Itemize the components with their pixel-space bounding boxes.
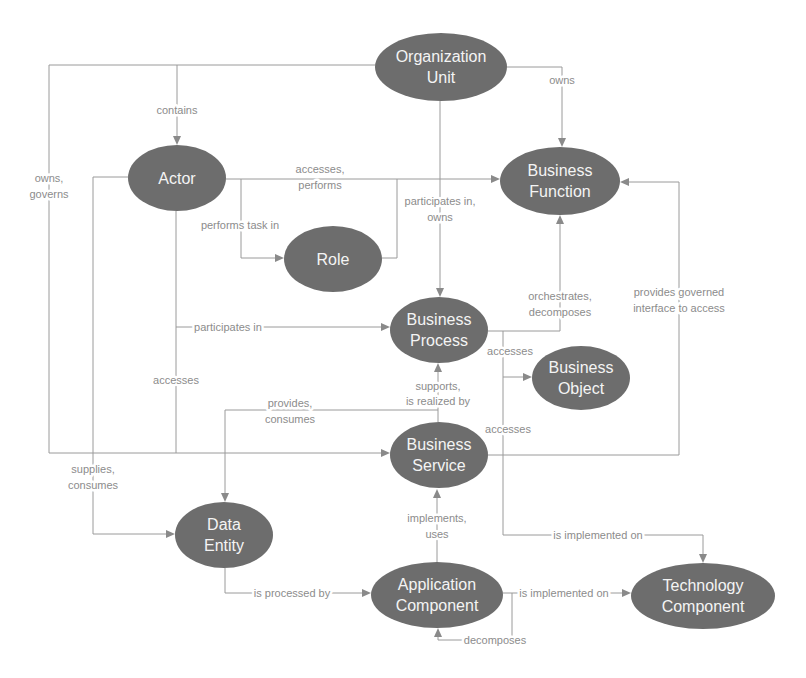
node-data-entity: Data Entity — [175, 502, 273, 568]
edge-label-orchestrates-decomposes: orchestrates, — [528, 290, 592, 302]
edge-label-provides-consumes: provides, — [268, 397, 313, 409]
edge-label-supplies-consumes: consumes — [68, 479, 119, 491]
edge-label-performs-task-in: performs task in — [201, 219, 279, 231]
node-business-function: Business Function — [500, 147, 620, 215]
arrow-head-icon — [620, 178, 629, 186]
edge-label-participates-in-owns: owns — [427, 211, 453, 223]
arrow-head-icon — [491, 175, 500, 183]
node-label: Business — [407, 311, 472, 328]
edge-label-provides-governed-interface: provides governed — [634, 286, 725, 298]
arrow-head-icon — [434, 628, 442, 637]
node-label: Data — [207, 516, 241, 533]
arrow-head-icon — [362, 589, 371, 597]
node-role: Role — [284, 226, 382, 292]
node-label: Service — [412, 457, 465, 474]
node-label: Application — [398, 576, 476, 593]
node-label: Process — [410, 332, 468, 349]
node-organization-unit: Organization Unit — [375, 33, 507, 101]
edge-provides-governed-interface — [488, 182, 679, 455]
node-business-object: Business Object — [532, 346, 630, 410]
edge-label-actor-accesses: accesses — [153, 374, 199, 386]
edge-label-supports-realized-by: supports, — [415, 380, 460, 392]
edge-role-to-function — [382, 179, 397, 258]
node-label: Organization — [396, 48, 487, 65]
edge-label-service-accesses: accesses — [485, 423, 531, 435]
edge-label-supplies-consumes: supplies, — [71, 463, 114, 475]
edge-label-accesses-performs: performs — [298, 179, 342, 191]
arrow-head-icon — [523, 373, 532, 381]
node-label: Function — [529, 183, 590, 200]
edge-label-process-accesses-object: accesses — [487, 345, 533, 357]
node-label: Business — [549, 359, 614, 376]
node-label: Object — [558, 380, 605, 397]
edge-label-provides-consumes: consumes — [265, 413, 316, 425]
edge-label-owns-governs: owns, — [35, 172, 64, 184]
node-actor: Actor — [128, 145, 226, 211]
node-label: Component — [396, 597, 479, 614]
edge-label-supports-realized-by: is realized by — [406, 395, 471, 407]
edge-label-orchestrates-decomposes: decomposes — [529, 306, 592, 318]
arrow-head-icon — [699, 554, 707, 563]
node-label: Entity — [204, 537, 244, 554]
node-business-process: Business Process — [390, 297, 488, 363]
arrow-head-icon — [381, 449, 390, 457]
node-application-component: Application Component — [371, 562, 503, 628]
arrow-head-icon — [556, 215, 564, 224]
node-label: Role — [317, 251, 350, 268]
arrow-head-icon — [434, 363, 442, 372]
node-technology-component: Technology Component — [631, 563, 775, 629]
edge-label-owns-governs: governs — [29, 188, 69, 200]
edge-label-owns: owns — [549, 74, 575, 86]
arrow-head-icon — [558, 138, 566, 147]
node-label: Technology — [663, 577, 744, 594]
node-label: Unit — [427, 69, 456, 86]
arrow-head-icon — [622, 589, 631, 597]
edge-label-actor-participates-in: participates in — [194, 321, 262, 333]
node-label: Business — [407, 436, 472, 453]
edge-label-contains: contains — [157, 104, 198, 116]
edge-label-participates-in-owns: participates in, — [405, 195, 476, 207]
arrow-head-icon — [433, 489, 441, 498]
arrow-head-icon — [166, 530, 175, 538]
edge-label-provides-governed-interface: interface to access — [633, 302, 725, 314]
entity-relationship-diagram: Organization Unit Actor Business Functio… — [0, 0, 806, 678]
arrow-head-icon — [173, 136, 181, 145]
arrow-head-icon — [275, 254, 284, 262]
edge-label-app-implemented-on: is implemented on — [519, 587, 608, 599]
edge-label-decomposes: decomposes — [464, 634, 527, 646]
arrow-head-icon — [436, 288, 444, 297]
edge-label-implements-uses: uses — [425, 528, 449, 540]
edge-label-is-processed-by: is processed by — [254, 587, 331, 599]
node-label: Component — [662, 598, 745, 615]
edge-label-process-implemented-on: is implemented on — [553, 529, 642, 541]
edge-label-implements-uses: implements, — [407, 512, 466, 524]
arrow-head-icon — [381, 323, 390, 331]
edge-label-accesses-performs: accesses, — [296, 163, 345, 175]
arrow-head-icon — [221, 493, 229, 502]
node-label: Actor — [158, 170, 196, 187]
node-business-service: Business Service — [390, 422, 488, 488]
node-label: Business — [528, 162, 593, 179]
